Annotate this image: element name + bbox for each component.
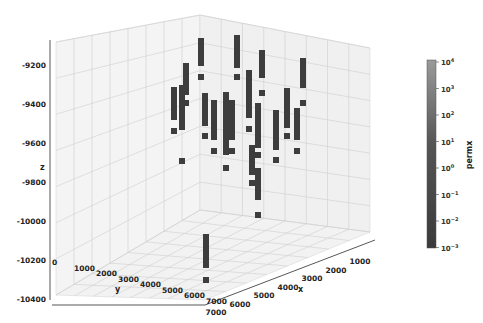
x-tick: 2000: [326, 266, 347, 275]
y-tick: 7000: [206, 297, 227, 306]
x-tick: 3000: [302, 274, 323, 283]
colorbar-label: permx: [465, 140, 474, 169]
well-column: [203, 234, 209, 268]
data-marker: [255, 212, 261, 218]
well-column: [294, 108, 300, 140]
well-column: [171, 87, 177, 120]
well-column: [255, 168, 261, 200]
y-tick: 4000: [140, 280, 161, 289]
well-column: [202, 93, 208, 126]
data-marker: [259, 90, 265, 96]
data-marker: [249, 180, 255, 186]
z-tick: -10000: [17, 217, 46, 226]
colorbar-tick: 10−1: [441, 190, 459, 200]
well-column: [255, 103, 261, 148]
data-marker: [300, 100, 306, 106]
colorbar-tick: 104: [441, 57, 455, 67]
z-tick: -9400: [22, 100, 46, 109]
z-tick: -9600: [22, 139, 46, 148]
data-marker: [255, 152, 261, 158]
z-axis-label: z: [40, 163, 45, 172]
colorbar-tick: 101: [441, 137, 455, 147]
data-marker: [171, 128, 177, 134]
x-axis-label: x: [298, 285, 304, 294]
well-column: [300, 58, 306, 88]
data-marker: [202, 133, 208, 139]
x-tick: 1000: [350, 257, 371, 266]
colorbar-ticks: 10410310210110010−110−210−3: [436, 57, 459, 253]
x-tick: 4000: [278, 283, 299, 292]
y-tick: 3000: [118, 275, 139, 284]
well-column: [234, 35, 240, 68]
y-tick: 0: [52, 258, 57, 267]
data-marker: [198, 74, 204, 80]
z-tick: -9800: [22, 178, 46, 187]
data-marker: [229, 148, 235, 154]
data-marker: [284, 133, 290, 139]
well-column: [246, 70, 252, 118]
well-column: [229, 100, 235, 140]
y-tick: 6000: [184, 291, 205, 300]
back-panes: [56, 15, 370, 300]
well-column: [273, 110, 279, 150]
x-tick: 6000: [230, 300, 251, 309]
3d-scatter-plot: -9200-9400-9600-9800-10000-10200-1040001…: [0, 0, 483, 323]
z-tick: -9200: [22, 61, 46, 70]
y-tick: 2000: [96, 269, 117, 278]
y-axis-label: y: [115, 285, 121, 294]
data-marker: [273, 157, 279, 163]
well-column: [211, 100, 217, 140]
data-marker: [294, 148, 300, 154]
data-marker: [234, 74, 240, 80]
well-column: [223, 92, 229, 155]
z-tick: -10400: [17, 295, 46, 304]
y-tick: 1000: [74, 264, 95, 273]
colorbar-tick: 10−2: [441, 216, 459, 226]
data-marker: [203, 277, 209, 283]
colorbar: [427, 60, 436, 248]
well-column: [249, 145, 255, 175]
z-tick: -10200: [17, 256, 46, 265]
well-column: [284, 88, 290, 128]
colorbar-tick: 100: [441, 163, 455, 173]
well-column: [259, 50, 265, 78]
well-column: [198, 38, 204, 66]
colorbar-tick: 10−3: [441, 243, 459, 253]
x-tick: 7000: [206, 308, 227, 317]
y-tick: 5000: [162, 286, 183, 295]
data-marker: [246, 126, 252, 132]
data-marker: [223, 165, 229, 171]
well-column: [179, 85, 185, 130]
colorbar-tick: 103: [441, 84, 455, 94]
data-marker: [179, 158, 185, 164]
x-tick: 5000: [254, 291, 275, 300]
data-marker: [211, 148, 217, 154]
colorbar-tick: 102: [441, 110, 455, 120]
